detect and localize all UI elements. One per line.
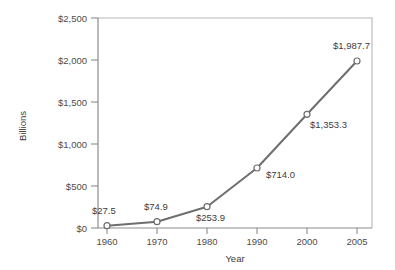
data-point-1960[interactable] — [104, 223, 110, 229]
x-tick-label-1960: 1960 — [96, 236, 117, 247]
data-label-1990: $714.0 — [266, 169, 295, 180]
data-label-2005: $1,987.7 — [333, 40, 370, 51]
data-point-1970[interactable] — [154, 219, 160, 225]
y-tick-label-1000: $1,000 — [58, 139, 87, 150]
data-label-1970: $74.9 — [144, 201, 168, 212]
data-label-2000: $1,353.3 — [310, 119, 347, 130]
x-axis-title: Year — [225, 253, 244, 264]
x-tick-label-1970: 1970 — [146, 236, 167, 247]
y-tick-label-2000: $2,000 — [58, 55, 87, 66]
line-chart: $2,500 $2,000 $1,500 $1,000 $500 $0 1960… — [0, 0, 395, 270]
chart-canvas: $2,500 $2,000 $1,500 $1,000 $500 $0 1960… — [0, 0, 395, 270]
x-tick-label-2005: 2005 — [346, 236, 367, 247]
y-tick-label-0: $0 — [76, 223, 87, 234]
data-label-1960: $27.5 — [92, 205, 116, 216]
data-point-1980[interactable] — [204, 204, 210, 210]
y-axis-title: Billions — [17, 111, 28, 141]
data-point-2000[interactable] — [304, 111, 310, 117]
x-tick-label-2000: 2000 — [296, 236, 317, 247]
y-tick-label-2500: $2,500 — [58, 13, 87, 24]
y-tick-label-1500: $1,500 — [58, 97, 87, 108]
x-tick-label-1990: 1990 — [246, 236, 267, 247]
data-point-1990[interactable] — [254, 165, 260, 171]
x-tick-label-1980: 1980 — [196, 236, 217, 247]
y-tick-label-500: $500 — [66, 181, 87, 192]
data-label-1980: $253.9 — [196, 212, 225, 223]
data-point-2005[interactable] — [354, 58, 360, 64]
